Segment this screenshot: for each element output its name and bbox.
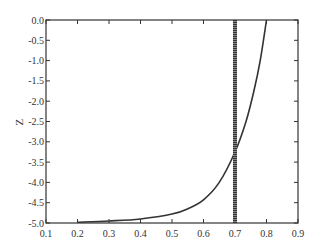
y-tick-label: -2.5 — [28, 116, 44, 127]
x-tick-label: 0.8 — [260, 228, 273, 239]
line-chart: 0.10.20.30.40.50.60.70.80.9 0.0-0.5-1.0-… — [0, 0, 324, 251]
y-tick-label: -1.5 — [28, 75, 44, 86]
y-tick-label: -4.5 — [28, 197, 44, 208]
y-tick-label: -1.0 — [28, 55, 44, 66]
x-tick-label: 0.1 — [40, 228, 53, 239]
y-tick-label: -5.0 — [28, 218, 44, 229]
x-tick-label: 0.4 — [134, 228, 147, 239]
y-tick-label: -4.0 — [28, 177, 44, 188]
x-tick-label: 0.7 — [229, 228, 242, 239]
plot-border — [46, 20, 298, 223]
x-tick-label: 0.9 — [292, 228, 305, 239]
y-axis-ticks: 0.0-0.5-1.0-1.5-2.0-2.5-3.0-3.5-4.0-4.5-… — [28, 15, 298, 229]
x-tick-label: 0.6 — [197, 228, 210, 239]
x-axis-ticks: 0.10.20.30.40.50.60.70.80.9 — [40, 20, 305, 239]
y-tick-label: 0.0 — [32, 15, 45, 26]
plot-frame — [46, 20, 298, 223]
x-tick-label: 0.2 — [71, 228, 84, 239]
y-tick-label: -2.0 — [28, 96, 44, 107]
x-tick-label: 0.5 — [166, 228, 179, 239]
series-layer — [78, 20, 267, 223]
y-tick-label: -3.0 — [28, 136, 44, 147]
y-tick-label: -3.5 — [28, 157, 44, 168]
data-curve — [78, 20, 267, 222]
x-tick-label: 0.3 — [103, 228, 116, 239]
y-tick-label: -0.5 — [28, 35, 44, 46]
y-axis-label: Z — [13, 118, 25, 125]
